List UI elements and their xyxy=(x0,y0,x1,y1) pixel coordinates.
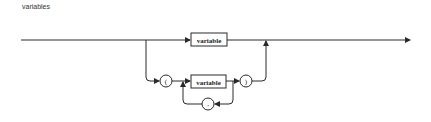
return-up-line xyxy=(252,41,266,81)
top-variable-label: variable xyxy=(197,37,222,45)
syntax-diagram: variable variable ( ) , xyxy=(0,0,431,122)
inner-variable-label: variable xyxy=(196,79,221,87)
branch-down-line xyxy=(146,40,159,81)
comma-label: , xyxy=(207,100,209,108)
